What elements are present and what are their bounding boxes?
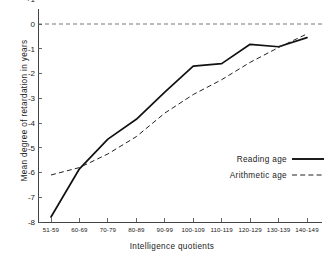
series-line-reading-age [51, 38, 307, 217]
chart-legend: Reading ageArithmetic age [230, 155, 324, 180]
series-line-arithmetic-age [51, 34, 307, 175]
y-tick-label: -7 [28, 193, 36, 202]
y-tick-label: -2 [28, 69, 36, 78]
x-tick-label: 140-149 [295, 226, 319, 233]
x-tick-label: 120-129 [238, 226, 262, 233]
chart-figure: Mean degree of retardation in years Inte… [0, 0, 330, 258]
plot-area: +10-1-2-3-4-5-6-7-8 51-5960-6970-7980-89… [0, 0, 330, 258]
x-tick-label: 110-119 [210, 226, 233, 233]
y-tick-label: -8 [28, 218, 36, 227]
legend-label-reading-age: Reading age [237, 155, 287, 164]
y-tick-label: -1 [28, 45, 36, 54]
x-axis-ticks: 51-5960-6970-7980-8990-99100-109110-1191… [43, 218, 319, 233]
x-tick-label: 100-109 [182, 226, 206, 233]
y-tick-label: 0 [31, 20, 36, 29]
axes [38, 9, 322, 222]
x-tick-label: 51-59 [43, 226, 60, 233]
y-tick-label: -4 [28, 119, 36, 128]
y-tick-label: -5 [28, 144, 36, 153]
x-tick-label: 70-79 [100, 226, 117, 233]
y-axis-ticks: +10-1-2-3-4-5-6-7-8 [26, 0, 42, 227]
y-tick-label: -6 [28, 168, 36, 177]
x-tick-label: 130-139 [267, 226, 291, 233]
x-tick-label: 80-89 [128, 226, 145, 233]
legend-label-arithmetic-age: Arithmetic age [230, 171, 287, 180]
data-series [51, 34, 307, 217]
y-tick-label: -3 [28, 94, 36, 103]
x-tick-label: 60-69 [71, 226, 88, 233]
y-tick-label: +1 [26, 0, 36, 4]
x-tick-label: 90-99 [157, 226, 174, 233]
